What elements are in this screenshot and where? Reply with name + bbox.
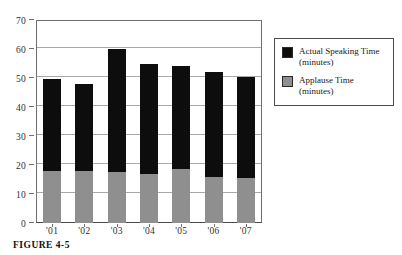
bar-group-07[interactable] [237, 77, 255, 223]
x-tick-label-07: '07 [240, 226, 252, 236]
x-tick-mark-04 [149, 224, 150, 227]
y-tick-mark-20 [29, 164, 34, 165]
y-tick-label-60: 60 [16, 45, 26, 55]
legend-units: (minutes) [299, 57, 380, 68]
bars-layer [36, 20, 262, 223]
bar-segment-speaking[interactable] [172, 66, 190, 169]
x-tick-mark-07 [246, 224, 247, 227]
x-tick-mark-05 [181, 224, 182, 227]
bar-segment-applause[interactable] [108, 172, 126, 223]
x-tick-mark-06 [214, 224, 215, 227]
x-tick-label-06: '06 [208, 226, 220, 236]
bar-segment-applause[interactable] [237, 178, 255, 223]
chart-legend: Actual Speaking Time(minutes)Applause Ti… [274, 38, 394, 106]
y-tick-mark-40 [29, 106, 34, 107]
figure-container: 010203040506070 '01'02'03'04'05'06'07 Ac… [0, 0, 402, 255]
y-tick-mark-50 [29, 77, 34, 78]
legend-label: Applause Time(minutes) [299, 75, 354, 97]
bar-segment-speaking[interactable] [75, 84, 93, 171]
bar-segment-speaking[interactable] [205, 72, 223, 176]
y-tick-mark-70 [29, 19, 34, 20]
x-tick-label-05: '05 [175, 226, 187, 236]
bar-segment-applause[interactable] [140, 174, 158, 223]
x-tick-label-02: '02 [78, 226, 90, 236]
x-axis: '01'02'03'04'05'06'07 [36, 224, 262, 240]
legend-item: Actual Speaking Time(minutes) [282, 46, 386, 68]
bar-segment-applause[interactable] [43, 171, 61, 223]
y-tick-label-20: 20 [16, 161, 26, 171]
y-tick-label-70: 70 [16, 16, 26, 26]
y-tick-label-30: 30 [16, 132, 26, 142]
legend-label: Actual Speaking Time(minutes) [299, 46, 380, 68]
bar-segment-applause[interactable] [75, 171, 93, 223]
bar-segment-applause[interactable] [172, 169, 190, 223]
y-tick-mark-10 [29, 193, 34, 194]
x-tick-mark-01 [52, 224, 53, 227]
y-tick-label-40: 40 [16, 103, 26, 113]
y-tick-label-0: 0 [21, 219, 26, 229]
bar-group-05[interactable] [172, 66, 190, 223]
bar-segment-applause[interactable] [205, 177, 223, 223]
x-tick-mark-03 [117, 224, 118, 227]
y-tick-mark-30 [29, 135, 34, 136]
y-axis: 010203040506070 [0, 20, 34, 223]
x-tick-label-04: '04 [143, 226, 155, 236]
bar-group-02[interactable] [75, 84, 93, 223]
bar-group-01[interactable] [43, 79, 61, 223]
y-tick-mark-0 [29, 222, 34, 223]
bar-group-04[interactable] [140, 64, 158, 223]
x-tick-label-01: '01 [46, 226, 58, 236]
y-tick-label-10: 10 [16, 190, 26, 200]
legend-item: Applause Time(minutes) [282, 75, 386, 97]
black-square-swatch [282, 47, 293, 58]
figure-caption: FIGURE 4-5 [13, 240, 70, 250]
y-tick-label-50: 50 [16, 74, 26, 84]
y-tick-mark-60 [29, 48, 34, 49]
bar-group-03[interactable] [108, 49, 126, 223]
bar-segment-speaking[interactable] [237, 77, 255, 179]
bar-segment-speaking[interactable] [140, 64, 158, 174]
gray-square-swatch [282, 76, 293, 87]
bar-group-06[interactable] [205, 72, 223, 223]
bar-segment-speaking[interactable] [43, 79, 61, 170]
legend-units: (minutes) [299, 86, 354, 97]
x-tick-label-03: '03 [111, 226, 123, 236]
bar-segment-speaking[interactable] [108, 49, 126, 172]
x-tick-mark-02 [84, 224, 85, 227]
